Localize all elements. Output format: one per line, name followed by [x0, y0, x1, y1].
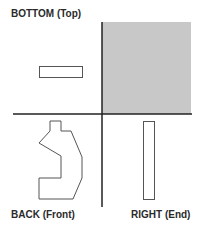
shaded-quadrant	[102, 22, 191, 114]
top-view-shape	[40, 67, 83, 78]
orthographic-views	[0, 0, 203, 229]
end-view-shape	[144, 122, 155, 200]
front-view-shape	[39, 121, 82, 199]
